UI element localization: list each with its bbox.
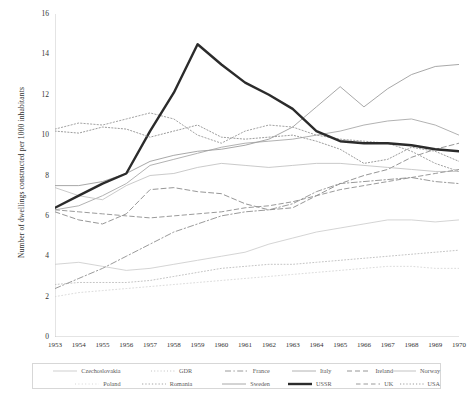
legend-label: UK (384, 380, 393, 387)
y-tick-label: 4 (25, 252, 49, 260)
series-line-france (55, 178, 459, 289)
legend-item-czechoslovakia[interactable]: Czechoslovakia (33, 367, 121, 375)
series-line-gdr (55, 250, 459, 284)
legend-row: PolandRomaniaSwedenUSSRUKUSA (33, 377, 440, 390)
legend-item-norway[interactable]: Norway (393, 367, 440, 375)
x-tick-label: 1970 (444, 341, 474, 349)
y-tick-label: 12 (25, 91, 49, 99)
legend-swatch-usa (399, 380, 425, 388)
legend-label: Norway (420, 367, 440, 374)
y-tick-label: 0 (25, 333, 49, 341)
legend-swatch-france (224, 367, 250, 375)
legend-swatch-sweden (221, 380, 247, 388)
chart-legend: CzechoslovakiaGDRFranceItalyIrelandNorwa… (32, 363, 441, 389)
legend-label: GDR (179, 367, 192, 374)
legend-swatch-ireland (346, 367, 372, 375)
legend-item-france[interactable]: France (192, 367, 270, 375)
legend-swatch-italy (291, 367, 317, 375)
legend-swatch-czechoslovakia (52, 367, 78, 375)
legend-label: Poland (103, 380, 120, 387)
legend-item-poland[interactable]: Poland (33, 380, 121, 388)
legend-item-usa[interactable]: USA (393, 380, 440, 388)
legend-item-sweden[interactable]: Sweden (192, 380, 270, 388)
legend-label: USA (428, 380, 440, 387)
legend-label: USSR (316, 380, 331, 387)
chart-figure: Number of dwellings constructed per 1000… (0, 0, 475, 410)
y-tick-label: 10 (25, 131, 49, 139)
series-line-norway (55, 163, 459, 199)
legend-swatch-poland (74, 380, 100, 388)
legend-label: Czechoslovakia (81, 367, 120, 374)
legend-item-uk[interactable]: UK (332, 380, 394, 388)
legend-swatch-uk (355, 380, 381, 388)
series-line-ireland (55, 143, 459, 224)
legend-label: Sweden (250, 380, 270, 387)
legend-item-romania[interactable]: Romania (121, 380, 193, 388)
legend-item-gdr[interactable]: GDR (121, 367, 193, 375)
series-line-poland (55, 266, 459, 296)
legend-swatch-gdr (150, 367, 176, 375)
legend-swatch-ussr (287, 380, 313, 388)
legend-label: Romania (170, 380, 192, 387)
series-line-ussr (55, 44, 459, 208)
y-tick-label: 14 (25, 50, 49, 58)
legend-row: CzechoslovakiaGDRFranceItalyIrelandNorwa… (33, 364, 440, 377)
series-line-czechoslovakia (55, 220, 459, 270)
legend-label: Italy (320, 367, 331, 374)
y-tick-label: 2 (25, 293, 49, 301)
y-tick-label: 8 (25, 172, 49, 180)
legend-swatch-norway (391, 367, 417, 375)
legend-label: France (253, 367, 270, 374)
y-tick-label: 6 (25, 212, 49, 220)
legend-item-italy[interactable]: Italy (270, 367, 332, 375)
legend-item-ussr[interactable]: USSR (270, 380, 332, 388)
y-tick-label: 16 (25, 10, 49, 18)
legend-item-ireland[interactable]: Ireland (331, 367, 393, 375)
legend-swatch-romania (141, 380, 167, 388)
chart-canvas (55, 14, 459, 337)
plot-area (55, 14, 459, 337)
series-line-sweden (55, 64, 459, 185)
